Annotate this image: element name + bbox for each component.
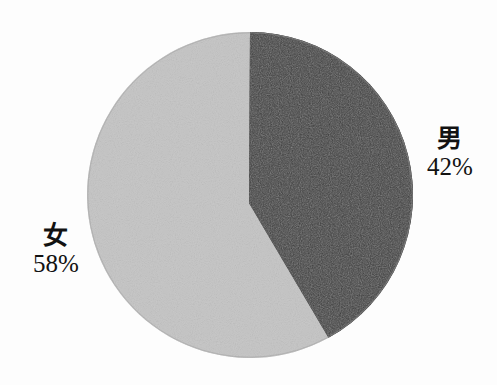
pie-chart-graphic	[86, 32, 413, 358]
pie-label-male-category: 男	[408, 126, 492, 153]
pie-label-female-category: 女	[14, 223, 98, 250]
pie-label-male-percent: 42%	[408, 154, 492, 181]
pie-chart-figure: 男 42% 女 58%	[0, 0, 497, 385]
pie-label-female: 女 58%	[14, 223, 98, 277]
pie-label-male: 男 42%	[408, 126, 492, 180]
pie-svg	[86, 32, 413, 358]
pie-label-female-percent: 58%	[14, 251, 98, 278]
